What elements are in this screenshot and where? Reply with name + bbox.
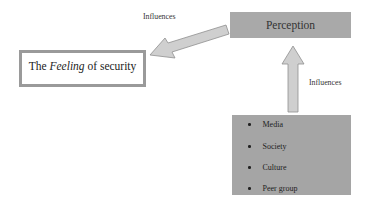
arrow-perception-to-feeling (150, 25, 229, 58)
influence-factors-node: Media Society Culture Peer group (232, 115, 351, 195)
factor-label: Media (263, 120, 283, 129)
edge-label-influences-top: Influences (143, 12, 175, 21)
factor-item: Peer group (248, 184, 297, 193)
bullet-icon (248, 187, 251, 190)
edge-label-influences-right: Influences (309, 78, 341, 87)
feeling-label: The Feeling of security (22, 60, 143, 72)
perception-label: Perception (266, 19, 315, 31)
factor-item: Culture (248, 163, 287, 172)
factor-label: Peer group (263, 184, 298, 193)
perception-node: Perception (230, 12, 351, 38)
feeling-prefix: The (29, 60, 50, 72)
feeling-suffix: of security (85, 60, 137, 72)
factor-item: Society (248, 142, 287, 151)
feeling-emphasis: Feeling (49, 60, 84, 72)
factor-label: Culture (263, 163, 287, 172)
factor-label: Society (263, 142, 287, 151)
arrow-factors-to-perception (282, 46, 304, 112)
factor-item: Media (248, 120, 283, 129)
feeling-of-security-node: The Feeling of security (19, 50, 146, 87)
bullet-icon (248, 145, 251, 148)
bullet-icon (248, 123, 251, 126)
bullet-icon (248, 166, 251, 169)
